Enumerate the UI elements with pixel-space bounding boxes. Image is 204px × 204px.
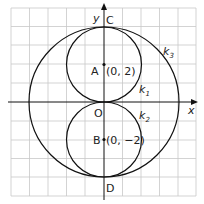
- label-A: A: [91, 65, 99, 78]
- label-D: D: [106, 182, 114, 195]
- label-A-coord: (0, 2): [106, 65, 136, 78]
- label-B-coord: (0, −2): [106, 134, 145, 147]
- y-axis-arrow-icon: [101, 3, 107, 10]
- label-k2: k2: [139, 109, 150, 124]
- x-axis-label: x: [187, 104, 195, 117]
- label-k1: k1: [139, 83, 150, 98]
- axes: [8, 7, 194, 200]
- y-axis-label: y: [92, 12, 100, 25]
- label-O: O: [94, 107, 103, 120]
- label-k3: k3: [163, 45, 174, 60]
- label-C: C: [106, 14, 114, 27]
- label-B: B: [93, 134, 101, 147]
- coordinate-diagram: y x C A (0, 2) O B (0, −2) D k3 k1 k2: [0, 0, 204, 204]
